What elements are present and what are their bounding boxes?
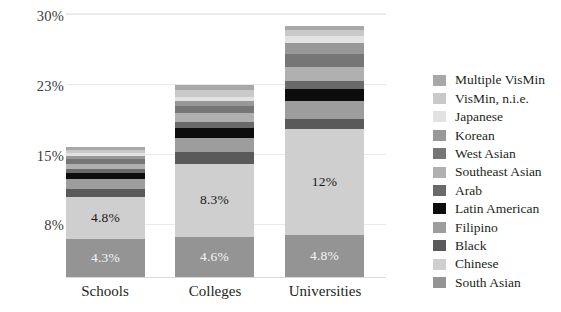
bar-universities[interactable]: 12%4.8% [285, 26, 364, 277]
y-tick-label: 30% [12, 8, 64, 25]
bar-segment[interactable]: 4.8% [285, 235, 364, 277]
legend-label: Black [455, 239, 487, 253]
bar-segment[interactable] [285, 89, 364, 101]
legend-label: VisMin, n.i.e. [455, 92, 529, 106]
segment-value-label: 8.3% [175, 193, 254, 207]
legend-label: South Asian [455, 276, 521, 290]
segment-value-label: 4.6% [175, 250, 254, 264]
legend-swatch-icon [433, 93, 446, 104]
bar-segment[interactable]: 8.3% [175, 164, 254, 237]
legend-item[interactable]: Korean [433, 126, 545, 144]
legend-label: Japanese [455, 110, 503, 124]
legend-swatch-icon [433, 277, 446, 288]
stacked-bar-chart: 30% 23% 15% 8% 4.8%4.3% 8.3%4.6% 12%4.8%… [0, 0, 561, 312]
legend-swatch-icon [433, 148, 446, 159]
bar-segment[interactable] [285, 36, 364, 43]
bar-schools[interactable]: 4.8%4.3% [66, 147, 145, 277]
legend: Multiple VisMinVisMin, n.i.e.JapaneseKor… [433, 71, 545, 292]
plot-area: 4.8%4.3% 8.3%4.6% 12%4.8% [66, 13, 386, 277]
y-tick-label: 8% [12, 217, 64, 234]
bar-segment[interactable] [285, 67, 364, 81]
bar-segment[interactable]: 4.6% [175, 237, 254, 277]
legend-label: Filipino [455, 221, 498, 235]
x-tick-label-colleges: Colleges [155, 283, 275, 300]
y-tick-label: 23% [12, 78, 64, 95]
bar-segment[interactable] [175, 128, 254, 138]
legend-label: West Asian [455, 147, 516, 161]
bar-segment[interactable]: 12% [285, 129, 364, 235]
bar-segment[interactable] [175, 113, 254, 122]
x-tick-label-schools: Schools [45, 283, 165, 300]
bar-segment[interactable] [175, 152, 254, 163]
legend-swatch-icon [433, 75, 446, 86]
legend-swatch-icon [433, 185, 446, 196]
bar-segment[interactable] [285, 81, 364, 89]
legend-item[interactable]: VisMin, n.i.e. [433, 89, 545, 107]
legend-item[interactable]: Southeast Asian [433, 163, 545, 181]
legend-swatch-icon [433, 203, 446, 214]
y-tick-label: 15% [12, 148, 64, 165]
bar-segment[interactable] [175, 138, 254, 152]
axis-baseline [66, 277, 386, 278]
bar-segment[interactable] [285, 54, 364, 67]
legend-item[interactable]: Filipino [433, 218, 545, 236]
x-tick-label-universities: Universities [265, 283, 385, 300]
segment-value-label: 4.8% [66, 211, 145, 225]
bar-segment[interactable] [66, 189, 145, 197]
bar-segment[interactable]: 4.3% [66, 239, 145, 277]
legend-label: Southeast Asian [455, 165, 542, 179]
legend-item[interactable]: Multiple VisMin [433, 71, 545, 89]
bar-colleges[interactable]: 8.3%4.6% [175, 85, 254, 277]
legend-label: Korean [455, 129, 495, 143]
segment-value-label: 4.8% [285, 249, 364, 263]
legend-item[interactable]: West Asian [433, 145, 545, 163]
legend-item[interactable]: South Asian [433, 273, 545, 291]
bar-segment[interactable] [66, 179, 145, 189]
bar-segment[interactable] [285, 101, 364, 119]
legend-swatch-icon [433, 240, 446, 251]
legend-item[interactable]: Arab [433, 181, 545, 199]
legend-item[interactable]: Chinese [433, 255, 545, 273]
legend-swatch-icon [433, 167, 446, 178]
segment-value-label: 4.3% [66, 251, 145, 265]
bar-segment[interactable] [175, 106, 254, 113]
segment-value-label: 12% [285, 175, 364, 189]
legend-swatch-icon [433, 259, 446, 270]
legend-swatch-icon [433, 130, 446, 141]
legend-item[interactable]: Japanese [433, 108, 545, 126]
bar-segment[interactable]: 4.8% [66, 197, 145, 239]
bar-segment[interactable] [175, 90, 254, 97]
legend-label: Multiple VisMin [455, 73, 545, 87]
legend-swatch-icon [433, 222, 446, 233]
legend-label: Latin American [455, 202, 539, 216]
bar-segment[interactable] [285, 119, 364, 130]
legend-swatch-icon [433, 111, 446, 122]
gridline-30 [66, 14, 386, 15]
legend-item[interactable]: Latin American [433, 200, 545, 218]
legend-item[interactable]: Black [433, 237, 545, 255]
bar-segment[interactable] [285, 43, 364, 54]
legend-label: Chinese [455, 257, 499, 271]
legend-label: Arab [455, 184, 482, 198]
